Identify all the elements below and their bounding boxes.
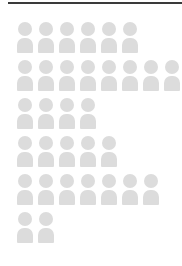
person-icon xyxy=(37,98,55,129)
person-icon xyxy=(79,60,97,91)
person-icon-body xyxy=(80,38,96,53)
pictogram-rows-container xyxy=(16,22,182,254)
person-icon xyxy=(100,136,118,167)
person-icon-head xyxy=(18,22,32,36)
pictogram-chart xyxy=(0,0,182,266)
person-icon-body xyxy=(38,76,54,91)
person-icon-body xyxy=(143,190,159,205)
person-icon xyxy=(37,60,55,91)
person-icon xyxy=(79,22,97,53)
person-icon xyxy=(121,60,139,91)
pictogram-row xyxy=(16,212,182,250)
person-icon-body xyxy=(17,152,33,167)
person-icon-head xyxy=(81,174,95,188)
person-icon xyxy=(16,22,34,53)
person-icon-body xyxy=(80,114,96,129)
person-icon-head xyxy=(81,98,95,112)
person-icon-body xyxy=(122,38,138,53)
person-icon xyxy=(16,98,34,129)
person-icon-body xyxy=(80,152,96,167)
person-icon-body xyxy=(122,76,138,91)
person-icon-head xyxy=(81,22,95,36)
person-icon-body xyxy=(17,114,33,129)
person-icon xyxy=(16,60,34,91)
person-icon-head xyxy=(81,60,95,74)
person-icon-body xyxy=(164,76,180,91)
person-icon xyxy=(58,174,76,205)
person-icon-head xyxy=(81,136,95,150)
top-rule-divider xyxy=(8,2,182,4)
person-icon-body xyxy=(17,76,33,91)
person-icon-head xyxy=(60,136,74,150)
person-icon xyxy=(163,60,181,91)
person-icon-head xyxy=(60,22,74,36)
person-icon-head xyxy=(39,136,53,150)
person-icon xyxy=(16,136,34,167)
person-icon-head xyxy=(60,60,74,74)
person-icon-head xyxy=(144,60,158,74)
person-icon-head xyxy=(39,22,53,36)
person-icon xyxy=(121,22,139,53)
person-icon xyxy=(79,136,97,167)
person-icon xyxy=(100,174,118,205)
person-icon-body xyxy=(38,38,54,53)
person-icon xyxy=(142,60,160,91)
person-icon xyxy=(100,22,118,53)
person-icon-body xyxy=(101,190,117,205)
pictogram-row xyxy=(16,98,182,136)
person-icon-body xyxy=(143,76,159,91)
person-icon-head xyxy=(123,174,137,188)
person-icon-head xyxy=(102,174,116,188)
person-icon-body xyxy=(59,152,75,167)
person-icon xyxy=(58,22,76,53)
person-icon-body xyxy=(59,190,75,205)
person-icon-head xyxy=(18,60,32,74)
person-icon-head xyxy=(18,174,32,188)
person-icon-body xyxy=(17,228,33,243)
person-icon-body xyxy=(101,152,117,167)
person-icon-body xyxy=(38,228,54,243)
person-icon xyxy=(16,174,34,205)
person-icon xyxy=(79,98,97,129)
person-icon-body xyxy=(80,76,96,91)
person-icon xyxy=(37,212,55,243)
person-icon-head xyxy=(39,212,53,226)
person-icon xyxy=(58,136,76,167)
person-icon-head xyxy=(18,212,32,226)
pictogram-row xyxy=(16,22,182,60)
pictogram-row xyxy=(16,136,182,174)
person-icon xyxy=(121,174,139,205)
person-icon xyxy=(58,60,76,91)
person-icon xyxy=(142,174,160,205)
person-icon xyxy=(100,60,118,91)
person-icon xyxy=(16,212,34,243)
person-icon xyxy=(37,174,55,205)
pictogram-row xyxy=(16,174,182,212)
person-icon-body xyxy=(59,76,75,91)
person-icon-head xyxy=(39,98,53,112)
person-icon-head xyxy=(102,136,116,150)
person-icon-head xyxy=(18,136,32,150)
person-icon xyxy=(79,174,97,205)
person-icon xyxy=(37,22,55,53)
person-icon-body xyxy=(17,190,33,205)
person-icon-body xyxy=(38,152,54,167)
person-icon xyxy=(37,136,55,167)
person-icon-head xyxy=(123,60,137,74)
pictogram-row xyxy=(16,60,182,98)
person-icon-body xyxy=(59,38,75,53)
person-icon-body xyxy=(38,190,54,205)
person-icon-head xyxy=(102,60,116,74)
person-icon-head xyxy=(144,174,158,188)
person-icon-head xyxy=(39,174,53,188)
person-icon-body xyxy=(17,38,33,53)
person-icon-head xyxy=(39,60,53,74)
person-icon-body xyxy=(122,190,138,205)
person-icon-body xyxy=(59,114,75,129)
person-icon xyxy=(58,98,76,129)
person-icon-body xyxy=(38,114,54,129)
person-icon-head xyxy=(18,98,32,112)
person-icon-head xyxy=(102,22,116,36)
person-icon-body xyxy=(101,76,117,91)
person-icon-body xyxy=(101,38,117,53)
